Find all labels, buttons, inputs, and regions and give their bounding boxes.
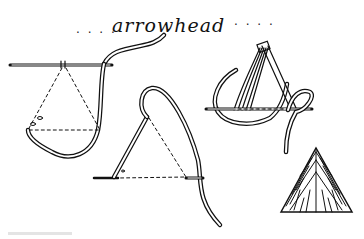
caption-watermark (8, 232, 72, 235)
stitch-fill (286, 150, 346, 212)
step-3-figure (206, 41, 312, 152)
step-2-figure (94, 88, 220, 225)
thread-top (104, 35, 164, 64)
step-1-figure (10, 61, 112, 156)
result-figure (281, 148, 352, 212)
stitch-illustration (0, 0, 364, 239)
